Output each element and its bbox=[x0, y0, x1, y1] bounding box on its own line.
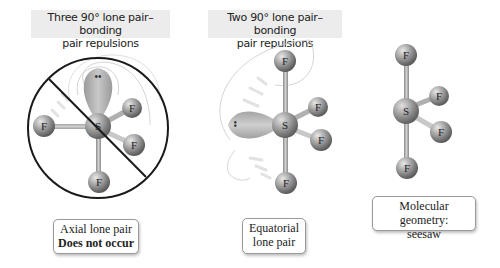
atom-label: F bbox=[282, 55, 288, 67]
caption-equatorial-line2: lone pair bbox=[247, 235, 301, 249]
motion-streaks bbox=[52, 94, 68, 116]
caption-axial: Axial lone pair Does not occur bbox=[53, 219, 139, 254]
equatorial-molecule: •• F S F F F bbox=[220, 40, 332, 194]
atom-label: F bbox=[129, 102, 135, 114]
seesaw-molecule: F S F F F bbox=[393, 44, 452, 179]
atom-label: F bbox=[403, 49, 409, 61]
atom-label: F bbox=[283, 177, 289, 189]
caption-equatorial-line1: Equatorial bbox=[247, 221, 301, 235]
lone-pair-dots: •• bbox=[230, 121, 240, 127]
atom-label: F bbox=[96, 176, 102, 188]
atom-label: F bbox=[131, 139, 137, 151]
atom-label: F bbox=[41, 120, 47, 132]
lone-pair-dots: •• bbox=[94, 71, 102, 82]
atom-label: F bbox=[404, 162, 410, 174]
caption-equatorial: Equatorial lone pair bbox=[242, 218, 306, 254]
caption-axial-line1: Axial lone pair bbox=[58, 222, 134, 236]
axial-molecule: •• F S F F F bbox=[28, 55, 168, 198]
caption-geometry: Molecular geometry: seesaw bbox=[372, 196, 476, 231]
repulsion-arc bbox=[227, 150, 250, 180]
atom-label: F bbox=[315, 101, 321, 113]
atom-label: S bbox=[282, 119, 288, 131]
caption-geometry-line1: Molecular geometry: bbox=[377, 199, 471, 227]
caption-geometry-line2: seesaw bbox=[377, 227, 471, 241]
atom-label: F bbox=[436, 90, 442, 102]
atom-label: F bbox=[318, 134, 324, 146]
caption-axial-line2: Does not occur bbox=[58, 236, 134, 250]
atom-label: S bbox=[403, 105, 409, 117]
atom-label: F bbox=[438, 126, 444, 138]
